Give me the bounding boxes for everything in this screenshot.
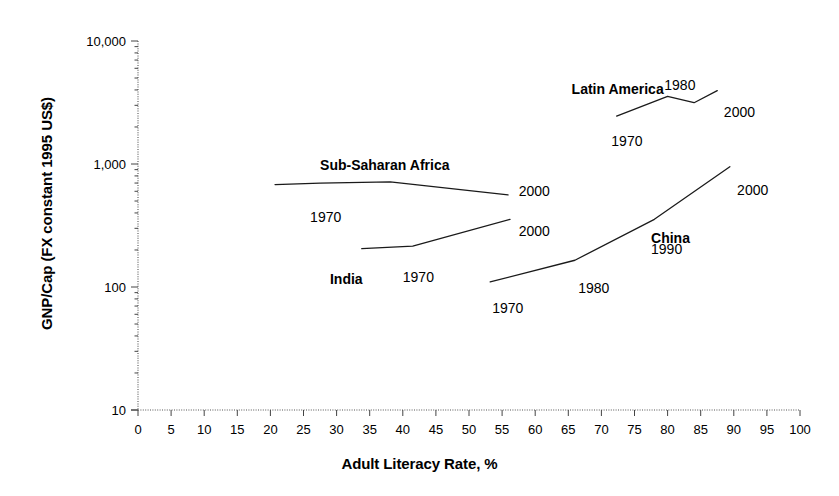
series-label-sub-saharan-africa: Sub-Saharan Africa (320, 157, 449, 173)
x-axis-tick-label: 70 (594, 422, 608, 437)
chart-container: GNP/Cap (FX constant 1995 US$) Adult Lit… (0, 0, 839, 496)
year-label: 2000 (724, 104, 755, 120)
year-label: 2000 (519, 223, 550, 239)
year-label: 1980 (578, 280, 609, 296)
series-line-sub-saharan-africa (275, 182, 508, 195)
series-label-latin-america: Latin America (572, 81, 664, 97)
x-axis-tick-label: 0 (134, 422, 141, 437)
x-axis-tick-label: 85 (693, 422, 707, 437)
x-axis-tick-label: 50 (462, 422, 476, 437)
year-label: 2000 (519, 183, 550, 199)
y-axis-tick-label: 10 (40, 403, 126, 418)
year-label: 1970 (492, 300, 523, 316)
y-axis-tick-label: 100 (40, 280, 126, 295)
series-label-india: India (330, 271, 363, 287)
year-label: 1970 (403, 269, 434, 285)
x-axis-tick-label: 60 (528, 422, 542, 437)
series-line-india (362, 219, 510, 248)
year-label: 2000 (737, 182, 768, 198)
year-label: 1980 (664, 77, 695, 93)
y-axis-tick-label: 10,000 (40, 34, 126, 49)
x-axis-tick-label: 10 (197, 422, 211, 437)
x-axis-tick-label: 75 (627, 422, 641, 437)
x-axis-tick-label: 55 (495, 422, 509, 437)
x-axis-tick-label: 100 (789, 422, 811, 437)
x-axis-tick-label: 15 (230, 422, 244, 437)
x-axis-title: Adult Literacy Rate, % (0, 455, 839, 472)
y-axis-title: GNP/Cap (FX constant 1995 US$) (38, 64, 55, 364)
year-label: 1990 (651, 241, 682, 257)
x-axis-tick-label: 25 (296, 422, 310, 437)
chart-plot-area (0, 0, 839, 496)
x-axis-tick-label: 35 (362, 422, 376, 437)
x-axis-tick-label: 90 (727, 422, 741, 437)
y-axis-tick-label: 1,000 (40, 157, 126, 172)
x-axis-tick-label: 40 (396, 422, 410, 437)
x-axis-tick-label: 65 (561, 422, 575, 437)
x-axis-tick-label: 30 (329, 422, 343, 437)
x-axis-tick-label: 95 (760, 422, 774, 437)
year-label: 1970 (310, 209, 341, 225)
x-axis-tick-label: 20 (263, 422, 277, 437)
x-axis-tick-label: 80 (660, 422, 674, 437)
year-label: 1970 (611, 133, 642, 149)
x-axis-tick-label: 45 (429, 422, 443, 437)
x-axis-tick-label: 5 (167, 422, 174, 437)
